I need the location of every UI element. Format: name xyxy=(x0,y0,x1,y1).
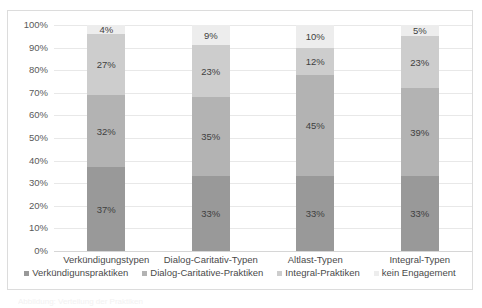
bar-segment[interactable]: 27% xyxy=(87,34,125,95)
bar-segment[interactable]: 10% xyxy=(296,25,334,48)
bar-segment-value-label: 27% xyxy=(97,59,116,70)
bar-segment[interactable]: 12% xyxy=(296,48,334,75)
y-axis-tick-label: 40% xyxy=(8,156,48,166)
y-axis-tick-label: 90% xyxy=(8,43,48,53)
bar-segment[interactable]: 39% xyxy=(401,88,439,176)
bar-segment[interactable]: 32% xyxy=(87,95,125,167)
bar-group: 33%35%23%9% xyxy=(159,25,264,251)
bar-segment-value-label: 23% xyxy=(201,66,220,77)
bar-segment[interactable]: 5% xyxy=(401,25,439,36)
legend-item-label: Dialog-Caritative-Praktiken xyxy=(150,267,263,279)
bar-segment-value-label: 33% xyxy=(306,208,325,219)
bar-segment[interactable]: 23% xyxy=(401,36,439,88)
bar-segment-value-label: 4% xyxy=(99,24,113,35)
y-axis-tick-label: 20% xyxy=(8,201,48,211)
bar-segment[interactable]: 45% xyxy=(296,75,334,177)
legend-swatch-icon xyxy=(24,271,29,276)
bar-segment[interactable]: 33% xyxy=(192,176,230,251)
bar-group: 33%45%12%10% xyxy=(263,25,368,251)
bar-segment-value-label: 33% xyxy=(410,208,429,219)
legend-swatch-icon xyxy=(142,271,147,276)
legend-item-label: Integral-Praktiken xyxy=(285,267,359,279)
bar-segment[interactable]: 33% xyxy=(296,176,334,251)
bar-group: 37%32%27%4% xyxy=(54,25,159,251)
bar-segment[interactable]: 23% xyxy=(192,45,230,97)
y-axis-tick-label: 10% xyxy=(8,223,48,233)
bar-segment-value-label: 37% xyxy=(97,204,116,215)
legend-swatch-icon xyxy=(277,271,282,276)
bar-segment-value-label: 5% xyxy=(413,25,427,36)
legend-item-label: kein Engagement xyxy=(382,267,456,279)
stacked-bar-chart: 0%10%20%30%40%50%60%70%80%90%100% 37%32%… xyxy=(0,0,482,308)
bar-segment[interactable]: 33% xyxy=(401,176,439,251)
bars-layer: 37%32%27%4%33%35%23%9%33%45%12%10%33%39%… xyxy=(54,25,472,251)
legend-item[interactable]: Dialog-Caritative-Praktiken xyxy=(142,267,263,279)
chart-plot-frame: 0%10%20%30%40%50%60%70%80%90%100% 37%32%… xyxy=(7,10,473,290)
caption-sliver: Abbildung: Verteilung der Praktiken xyxy=(18,298,218,306)
bar-stack[interactable]: 33%45%12%10% xyxy=(296,25,334,251)
y-axis-tick-label: 30% xyxy=(8,178,48,188)
bar-segment-value-label: 32% xyxy=(97,126,116,137)
bar-stack[interactable]: 33%35%23%9% xyxy=(192,25,230,251)
bar-segment-value-label: 23% xyxy=(410,57,429,68)
legend-item[interactable]: kein Engagement xyxy=(374,267,456,279)
bar-stack[interactable]: 33%39%23%5% xyxy=(401,25,439,251)
bar-segment[interactable]: 4% xyxy=(87,25,125,34)
chart-legend: VerkündigunspraktikenDialog-Caritative-P… xyxy=(7,264,473,282)
bar-segment-value-label: 10% xyxy=(306,31,325,42)
y-axis-tick-label: 0% xyxy=(8,246,48,256)
y-axis-tick-label: 100% xyxy=(8,20,48,30)
bar-segment-value-label: 39% xyxy=(410,127,429,138)
y-axis-tick-label: 60% xyxy=(8,110,48,120)
bar-segment-value-label: 9% xyxy=(204,30,218,41)
bar-segment[interactable]: 37% xyxy=(87,167,125,251)
bar-stack[interactable]: 37%32%27%4% xyxy=(87,25,125,251)
bar-segment-value-label: 33% xyxy=(201,208,220,219)
legend-item-label: Verkündigunspraktiken xyxy=(32,267,128,279)
bar-segment-value-label: 35% xyxy=(201,131,220,142)
legend-swatch-icon xyxy=(374,271,379,276)
y-axis: 0%10%20%30%40%50%60%70%80%90%100% xyxy=(8,25,52,251)
bar-segment[interactable]: 9% xyxy=(192,25,230,45)
y-axis-tick-label: 50% xyxy=(8,133,48,143)
plot-area: 37%32%27%4%33%35%23%9%33%45%12%10%33%39%… xyxy=(54,25,472,251)
y-axis-tick-label: 70% xyxy=(8,88,48,98)
legend-item[interactable]: Verkündigunspraktiken xyxy=(24,267,128,279)
legend-item[interactable]: Integral-Praktiken xyxy=(277,267,359,279)
bar-segment[interactable]: 35% xyxy=(192,97,230,176)
bar-group: 33%39%23%5% xyxy=(368,25,473,251)
bar-segment-value-label: 45% xyxy=(306,120,325,131)
axis-baseline xyxy=(54,251,472,252)
bar-segment-value-label: 12% xyxy=(306,56,325,67)
y-axis-tick-label: 80% xyxy=(8,65,48,75)
